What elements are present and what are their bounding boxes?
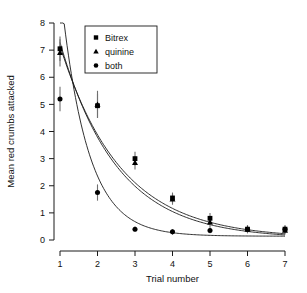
data-point-both-6	[245, 227, 250, 232]
x-tick-label: 6	[245, 259, 250, 269]
legend-label-bitrex: Bitrex	[105, 33, 129, 43]
fit-curve-bitrex	[60, 46, 285, 234]
legend-marker-both	[94, 63, 99, 68]
x-axis-title: Trial number	[146, 273, 199, 284]
y-axis-tick-labels: 012345678	[40, 18, 45, 245]
y-tick-label: 3	[40, 154, 45, 164]
data-point-both-3	[132, 227, 137, 232]
y-tick-label: 8	[40, 18, 45, 28]
data-point-both-4	[170, 229, 175, 234]
y-axis-ticks	[49, 23, 54, 240]
x-tick-label: 3	[132, 259, 137, 269]
y-tick-label: 1	[40, 208, 45, 218]
data-point-both-5	[207, 228, 212, 233]
data-point-both-7	[282, 227, 287, 232]
data-point-both-1	[57, 96, 62, 101]
legend-label-quinine: quinine	[105, 47, 134, 57]
y-tick-label: 7	[40, 45, 45, 55]
y-tick-label: 4	[40, 127, 45, 137]
x-tick-label: 5	[207, 259, 212, 269]
x-axis-ticks	[60, 251, 285, 256]
legend-marker-bitrex	[94, 35, 98, 39]
x-axis-tick-labels: 1234567	[57, 259, 287, 269]
x-tick-label: 4	[170, 259, 175, 269]
y-tick-label: 0	[40, 235, 45, 245]
x-tick-label: 1	[57, 259, 62, 269]
data-markers	[57, 46, 288, 234]
chart-legend: Bitrexquinineboth	[85, 26, 157, 73]
y-tick-label: 6	[40, 72, 45, 82]
y-tick-label: 2	[40, 181, 45, 191]
data-point-both-2	[95, 190, 100, 195]
x-tick-label: 7	[282, 259, 287, 269]
legend-label-both: both	[105, 61, 123, 71]
chart-figure: 012345678 1234567 Trial number Mean red …	[0, 0, 307, 293]
scatter-plot: 012345678 1234567 Trial number Mean red …	[0, 0, 307, 293]
y-axis-title: Mean red crumbs attacked	[5, 75, 16, 187]
plot-axes	[49, 23, 285, 256]
x-tick-label: 2	[95, 259, 100, 269]
y-tick-label: 5	[40, 100, 45, 110]
